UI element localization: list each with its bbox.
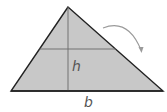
arrowhead-icon xyxy=(139,47,144,53)
base-label: b xyxy=(84,94,93,110)
triangle-diagram: h b xyxy=(0,0,167,112)
height-label: h xyxy=(72,58,81,74)
